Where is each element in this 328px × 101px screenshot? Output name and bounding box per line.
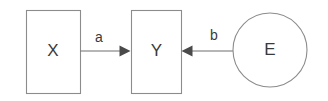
edge-a-label: a — [95, 29, 103, 45]
diagram-svg: X a Y b E — [0, 0, 328, 101]
node-e-label: E — [264, 40, 275, 59]
diagram-canvas: X a Y b E — [0, 0, 328, 101]
edge-b-label: b — [210, 27, 218, 43]
edge-a-arrowhead-icon — [120, 46, 131, 57]
edge-b-arrowhead-icon — [182, 46, 193, 57]
node-x-label: X — [47, 41, 58, 60]
node-y-label: Y — [151, 41, 162, 60]
